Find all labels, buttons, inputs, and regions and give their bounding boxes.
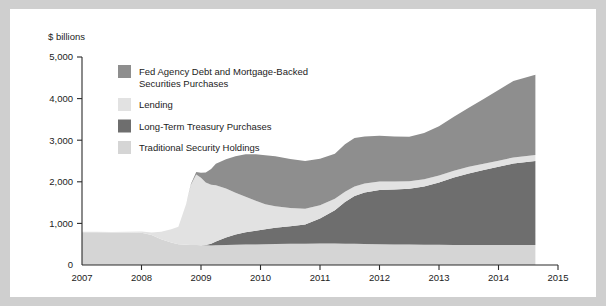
legend-label: Securities Purchases [139,78,228,89]
legend-label: Lending [139,99,173,110]
chart-figure: $ billions 01,0002,0003,0004,0005,000200… [10,9,596,297]
x-tick-label: 2009 [190,272,211,283]
stacked-area-chart: 01,0002,0003,0004,0005,00020072008200920… [10,9,596,297]
x-tick-label: 2011 [310,272,330,283]
x-tick-label: 2007 [71,272,92,283]
x-tick-label: 2015 [547,272,568,283]
x-tick-label: 2013 [428,272,449,283]
y-tick-label: 0 [68,259,73,270]
y-tick-label: 4,000 [49,93,73,104]
legend-swatch [118,65,131,78]
x-tick-label: 2008 [131,272,152,283]
legend-label: Fed Agency Debt and Mortgage-Backed [139,66,308,77]
y-tick-label: 3,000 [49,135,73,146]
y-tick-label: 2,000 [49,176,73,187]
x-tick-label: 2012 [369,272,390,283]
legend-label: Traditional Security Holdings [139,142,260,153]
y-tick-label: 1,000 [49,218,73,229]
legend-label: Long-Term Treasury Purchases [139,121,272,132]
x-tick-label: 2014 [488,272,509,283]
chart-legend: Fed Agency Debt and Mortgage-BackedSecur… [118,65,308,154]
legend-swatch [118,141,131,154]
legend-swatch [118,120,131,133]
y-tick-label: 5,000 [49,51,73,62]
x-tick-label: 2010 [250,272,271,283]
legend-swatch [118,98,131,111]
